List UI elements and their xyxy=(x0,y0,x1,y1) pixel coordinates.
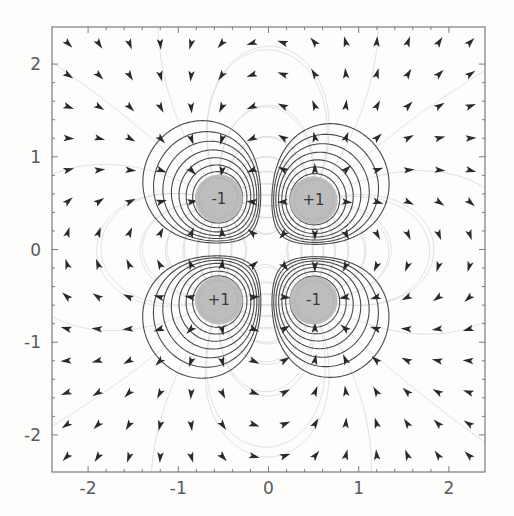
charge-value-label: +1 xyxy=(208,291,230,309)
charge-value-label: +1 xyxy=(303,191,325,209)
x-tick-label: 1 xyxy=(353,478,364,498)
charge-top-right: +1 xyxy=(290,176,338,224)
charge-value-label: -1 xyxy=(306,291,321,309)
x-tick-label: -2 xyxy=(80,478,97,498)
y-tick-label: -1 xyxy=(24,332,41,352)
quadrupole-figure: -2-1012-2-1012 -1+1+1-1 xyxy=(0,0,514,516)
y-tick-label: -2 xyxy=(24,425,41,445)
charge-top-left: -1 xyxy=(195,175,243,223)
equipotential-contour xyxy=(386,201,387,203)
y-tick-label: 0 xyxy=(30,240,41,260)
y-tick-label: 2 xyxy=(30,54,41,74)
x-tick-label: 2 xyxy=(444,478,455,498)
charge-bottom-left: +1 xyxy=(195,276,243,324)
charge-value-label: -1 xyxy=(211,190,226,208)
x-tick-label: -1 xyxy=(170,478,187,498)
figure-background xyxy=(0,0,514,516)
charge-bottom-right: -1 xyxy=(290,276,338,324)
y-tick-label: 1 xyxy=(30,147,41,167)
x-tick-label: 0 xyxy=(263,478,274,498)
